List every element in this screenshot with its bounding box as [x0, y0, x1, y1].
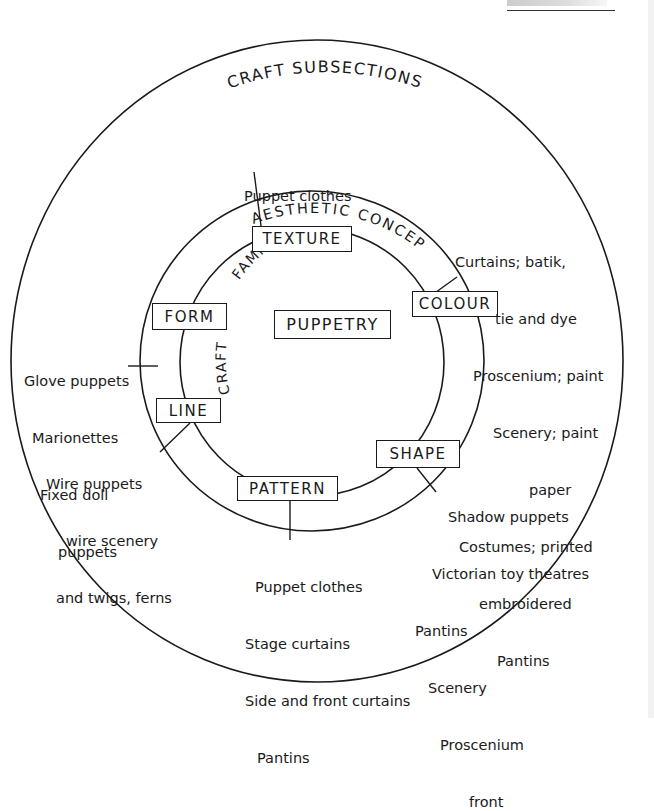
note-line: Puppet clothes	[245, 578, 410, 597]
note-line: Wire puppets	[46, 475, 172, 494]
concept-box-pattern: PATTERN	[237, 476, 338, 501]
concept-box-line: LINE	[156, 398, 221, 423]
outer-ring-label: CRAFT SUBSECTIONS	[225, 57, 426, 92]
note-line: Scenery; paint	[455, 424, 603, 443]
note-line: Pantins	[415, 622, 589, 641]
note-texture: Puppet clothes	[244, 149, 352, 244]
note-line: Scenery	[415, 679, 589, 698]
center-box-puppetry: PUPPETRY	[274, 310, 391, 339]
note-line: Pantins	[245, 749, 410, 768]
note-line: and twigs, ferns	[46, 589, 172, 608]
note-shape: Shadow puppets Victorian toy theatres Pa…	[415, 470, 589, 811]
note-line: Puppet clothes	[244, 187, 352, 206]
note-line-concept: Wire puppets wire scenery and twigs, fer…	[46, 437, 172, 646]
note-line: Side and front curtains	[245, 692, 410, 711]
note-line: tie and dye	[455, 310, 603, 329]
note-line: Proscenium; paint	[455, 367, 603, 386]
concept-box-shape: SHAPE	[376, 440, 460, 468]
note-line: front	[415, 793, 589, 811]
inner-ring-label-craft: CRAFT	[213, 340, 233, 396]
note-line: Curtains; batik,	[455, 253, 603, 272]
middle-ring-label: AESTHETIC CONCEPT	[0, 0, 429, 253]
concept-box-form: FORM	[152, 303, 227, 330]
note-line: Proscenium	[415, 736, 589, 755]
note-line: Shadow puppets	[415, 508, 589, 527]
note-line: Victorian toy theatres	[415, 565, 589, 584]
note-pattern: Puppet clothes Stage curtains Side and f…	[245, 540, 410, 806]
note-line: Stage curtains	[245, 635, 410, 654]
note-line: wire scenery	[46, 532, 172, 551]
note-line: Glove puppets	[24, 372, 129, 391]
